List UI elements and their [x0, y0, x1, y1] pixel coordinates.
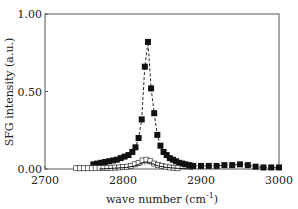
data-point: [139, 116, 145, 122]
series-0: [90, 39, 282, 171]
y-axis-label: SFG intensity (a.u.): [3, 38, 16, 147]
data-point: [136, 135, 142, 141]
data-point: [253, 164, 259, 170]
x-axis-label: wave number (cm-1): [106, 191, 218, 206]
x-axis-label-main: wave number (cm: [106, 193, 207, 206]
data-point: [237, 161, 243, 167]
data-point: [132, 144, 138, 150]
y-tick-label: 0.50: [18, 86, 43, 99]
data-point: [214, 163, 220, 169]
data-point: [198, 163, 204, 169]
y-axis-ticks: 0.000.501.00: [18, 8, 49, 176]
x-axis-label-superscript: -1: [206, 191, 214, 200]
series-layer: [74, 39, 282, 171]
data-point: [268, 164, 274, 170]
x-tick-label: 2700: [31, 174, 59, 187]
data-point: [154, 132, 160, 138]
data-point: [221, 162, 227, 168]
data-point: [229, 162, 235, 168]
y-tick-label: 1.00: [18, 8, 43, 21]
data-point: [245, 162, 251, 168]
data-point: [260, 164, 266, 170]
data-point: [142, 64, 148, 70]
sfg-spectrum-chart: 0.000.501.00 2700280029003000 SFG intens…: [0, 0, 298, 209]
data-point: [151, 110, 157, 116]
x-tick-label: 2800: [109, 174, 137, 187]
x-tick-label: 2900: [187, 174, 215, 187]
data-point: [148, 85, 154, 91]
x-axis-label-tail: ): [214, 193, 218, 206]
data-point: [206, 163, 212, 169]
data-point: [276, 164, 282, 170]
data-point: [145, 39, 151, 45]
data-point: [157, 143, 163, 149]
data-point: [190, 163, 196, 169]
x-tick-label: 3000: [265, 174, 293, 187]
